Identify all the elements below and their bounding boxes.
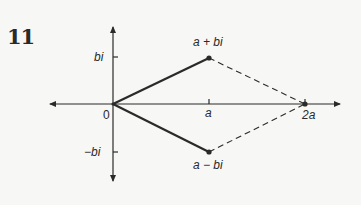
solid-vectors xyxy=(113,58,209,152)
point-upper xyxy=(206,55,211,60)
point-lower xyxy=(206,149,211,154)
complex-plane-diagram: 11 0 bi −bi a 2a a + bi a − bi xyxy=(0,0,361,205)
origin-label: 0 xyxy=(103,108,110,122)
point-upper-label: a + bi xyxy=(193,35,223,49)
figure-number: 11 xyxy=(7,24,34,49)
y-pos-label: bi xyxy=(94,50,103,64)
diagram-graphics xyxy=(0,0,361,205)
point-lower-label: a − bi xyxy=(193,158,223,172)
point-2a xyxy=(302,101,307,106)
y-neg-label: −bi xyxy=(84,145,100,159)
origin-point xyxy=(111,102,114,105)
x-a-label: a xyxy=(205,106,212,120)
dashed-sides xyxy=(209,58,305,152)
x-2a-label: 2a xyxy=(302,108,315,122)
